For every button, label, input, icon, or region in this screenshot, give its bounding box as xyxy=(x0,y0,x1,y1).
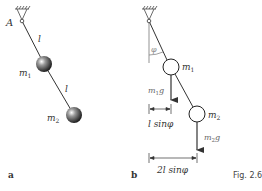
fixed-support-icon xyxy=(142,6,157,20)
mass-1-label: m1 xyxy=(19,68,31,79)
pivot-joint xyxy=(20,19,24,23)
force-2-label: m2g xyxy=(204,133,220,143)
figure-caption: Fig. 2.6 xyxy=(233,171,262,180)
panel-b-label: b xyxy=(131,170,137,180)
rod-2-label: l xyxy=(65,84,68,94)
force-1-label: m1g xyxy=(148,86,164,96)
rod-1-label: l xyxy=(38,34,41,44)
mass-1-label: m1 xyxy=(182,62,194,73)
dimension-line-2 xyxy=(149,153,197,163)
fixed-support-icon xyxy=(15,6,30,20)
mass-2-ball xyxy=(66,107,82,123)
dimension-2-label: 2l sinφ xyxy=(156,165,189,175)
dimension-1-label: l sinφ xyxy=(148,119,174,129)
double-pendulum-figure: A l l m1 m2 a φ xyxy=(0,0,262,191)
mass-1-ball xyxy=(36,56,52,72)
pivot-label: A xyxy=(5,17,13,28)
mass-1-circle xyxy=(163,59,179,75)
rod-2 xyxy=(175,74,193,107)
dimension-line-1 xyxy=(149,104,171,114)
panel-a-label: a xyxy=(8,170,14,180)
mass-2-label: m2 xyxy=(208,110,221,121)
mass-2-circle xyxy=(189,106,205,122)
panel-b: φ m1 m2 m1g m2g l sinφ xyxy=(131,6,221,180)
angle-label: φ xyxy=(151,45,157,54)
mass-2-label: m2 xyxy=(47,113,60,124)
panel-a: A l l m1 m2 a xyxy=(5,6,82,180)
rod-2 xyxy=(44,64,74,115)
pivot-joint xyxy=(147,19,151,23)
